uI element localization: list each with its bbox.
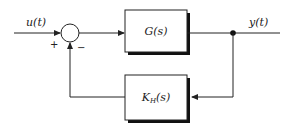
feedback-return-line — [192, 33, 233, 97]
summing-junction — [61, 24, 79, 42]
block-diagram: u(t) + − G(s) y(t) KH(s) — [0, 0, 292, 132]
forward-block-label: G(s) — [144, 25, 167, 38]
input-label: u(t) — [26, 16, 46, 29]
output-label: y(t) — [248, 16, 268, 29]
feedback-block-label: KH(s) — [141, 91, 171, 105]
plus-sign: + — [50, 39, 58, 50]
minus-sign: − — [77, 42, 85, 53]
